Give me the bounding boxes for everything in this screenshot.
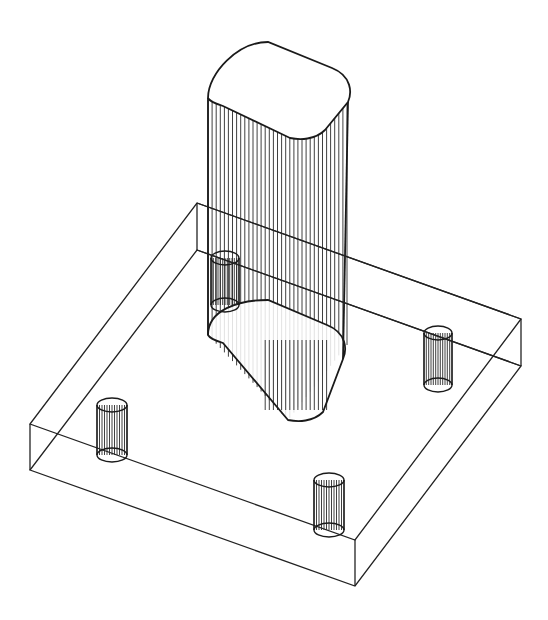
wireframe-diagram [0,0,548,620]
isometric-drawing [0,0,548,620]
pin-left [97,398,127,462]
column-bottom-fill [208,300,345,421]
column [208,42,350,421]
